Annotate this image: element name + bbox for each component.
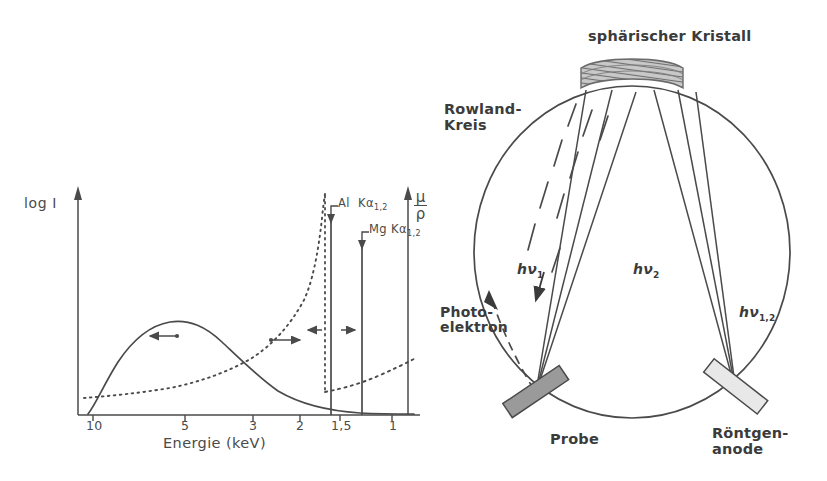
chart-svg [0, 0, 440, 481]
leader-al [327, 206, 338, 224]
rowland-label-line2: Kreis [444, 117, 487, 133]
hv12-sub: 1,2 [759, 313, 776, 323]
xray-anode-plate [704, 359, 768, 414]
peak-label-mg: Mg Kα1,2 [369, 223, 421, 239]
anode-label-line2: anode [712, 441, 763, 457]
peak-label-al: Al Kα1,2 [338, 197, 388, 213]
mu-symbol: μ [414, 190, 427, 204]
rowland-circle [474, 86, 790, 418]
x-tick-2: 3 [249, 419, 257, 433]
spherical-crystal [581, 59, 683, 88]
hv12-symbol: hν [739, 304, 759, 320]
figure-root: log I Energie (keV) 10 5 3 2 1,5 1 Al Kα… [0, 0, 827, 481]
hv2-symbol: hν [633, 261, 653, 277]
rowland-label: Rowland- Kreis [444, 102, 522, 133]
anode-label-line1: Röntgen- [712, 425, 789, 441]
y-axis-left [74, 186, 82, 415]
hv2-label: hν2 [633, 262, 659, 281]
hv1-label: hν1 [517, 262, 543, 281]
leader-mg [358, 232, 369, 250]
peak-label-al-sub: 1,2 [374, 203, 388, 212]
x-axis-label: Energie (keV) [163, 436, 266, 452]
anode-label: Röntgen- anode [712, 426, 789, 457]
curve-mass-absorption [84, 194, 325, 398]
peak-label-mg-line: Kα [391, 222, 407, 236]
x-tick-4: 1,5 [331, 419, 352, 433]
sample-label: Probe [550, 432, 599, 448]
peak-label-al-line: Kα [358, 196, 374, 210]
photoelectron-label-line1: Photo- [440, 304, 493, 320]
peak-label-mg-element: Mg [369, 222, 387, 236]
crystal-label: sphärischer Kristall [588, 29, 751, 45]
hv12-label: hν1,2 [739, 305, 775, 324]
x-tick-3: 2 [296, 419, 304, 433]
rowland-circle-diagram: sphärischer Kristall Rowland- Kreis Phot… [440, 0, 827, 481]
hv1-sub: 1 [537, 270, 543, 280]
photoelectron-label: Photo- elektron [440, 305, 508, 335]
y-axis-right [404, 186, 412, 415]
hv1-symbol: hν [517, 261, 537, 277]
x-tick-1: 5 [181, 419, 189, 433]
scattered-rays-hv1 [528, 104, 608, 272]
curve-bremsstrahlung [88, 321, 414, 414]
rowland-label-line1: Rowland- [444, 101, 522, 117]
x-tick-5: 1 [389, 419, 397, 433]
hv2-sub: 2 [653, 270, 659, 280]
y-axis-label: log I [24, 196, 57, 211]
arrow-solid-curve-left [150, 334, 179, 338]
beam-crystal-to-sample [536, 90, 636, 392]
curve-mass-absorption-lowE [325, 359, 414, 392]
photoelectron-label-line2: elektron [440, 319, 508, 335]
diagram-svg [440, 0, 827, 481]
rho-symbol: ρ [414, 207, 427, 222]
y-axis-right-label: μ ρ [414, 190, 427, 222]
peak-label-mg-sub: 1,2 [407, 229, 421, 238]
arrow-dotted-curve-right [269, 338, 300, 342]
sample-plate [503, 366, 569, 418]
peak-label-al-element: Al [338, 196, 350, 210]
xray-spectrum-chart: log I Energie (keV) 10 5 3 2 1,5 1 Al Kα… [0, 0, 440, 481]
beam-anode-to-crystal [654, 90, 736, 392]
x-tick-0: 10 [86, 419, 103, 433]
